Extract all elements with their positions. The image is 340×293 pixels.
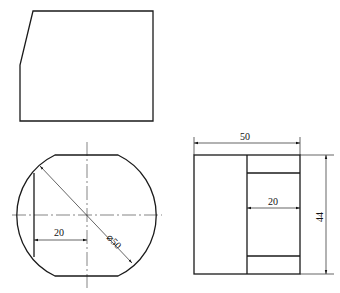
top-view-outline: [20, 11, 153, 121]
width-dimension-label: 50: [240, 131, 250, 142]
technical-drawing: ⌀50 20 50 20 44: [0, 0, 340, 293]
height-dimension-label: 44: [314, 212, 325, 222]
front-view: ⌀50 20: [12, 142, 162, 290]
inner-dimension-label: 20: [268, 196, 278, 207]
top-view: [20, 11, 153, 121]
chord-dimension-label: 20: [54, 227, 64, 238]
side-view: 50 20 44: [194, 131, 334, 274]
diameter-label: ⌀50: [105, 232, 124, 251]
